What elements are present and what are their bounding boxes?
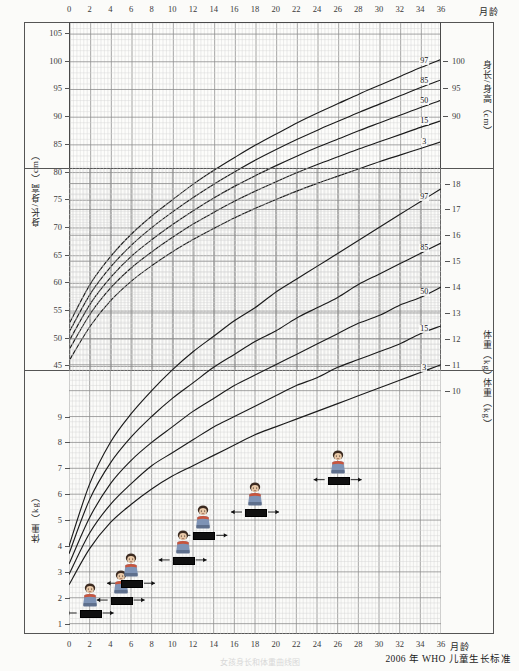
x-tick-2: 2 [88,640,92,649]
height-left-tick-105: 105 [49,29,62,38]
tick-dash [445,313,450,314]
marker-label-bar [80,610,102,618]
x-tick-2: 2 [88,5,92,14]
tick-dash [445,261,450,262]
x-tick-0: 0 [67,640,71,649]
marker-label-bar [173,557,195,565]
baby-illustration-marker [79,582,101,608]
x-tick-12: 12 [189,5,198,14]
x-tick-26: 26 [333,5,342,14]
weight-right-tick-15: 15 [452,257,461,266]
weight-axis-label-right-upper: 体重（kg） [481,330,494,381]
x-tick-14: 14 [209,640,218,649]
x-tick-22: 22 [292,640,301,649]
x-tick-24: 24 [313,5,322,14]
baby-illustration-marker [192,504,214,530]
growth-chart-page: 024681012141618202224262830323436 月龄 455… [0,0,519,671]
x-tick-6: 6 [129,5,133,14]
x-tick-28: 28 [354,640,363,649]
weight-left-tick-1: 1 [58,619,62,628]
weight-left-tick-3: 3 [58,568,62,577]
x-tick-30: 30 [375,640,384,649]
baby-illustration-marker [244,481,266,507]
x-tick-22: 22 [292,5,301,14]
x-tick-26: 26 [333,640,342,649]
percentile-label-3: 3 [421,138,427,146]
tick-dash [443,61,448,62]
x-tick-10: 10 [168,5,177,14]
percentile-label-3: 3 [421,364,427,372]
x-tick-12: 12 [189,640,198,649]
height-left-tick-85: 85 [54,140,63,149]
marker-label-bar [328,477,350,485]
baby-illustration-marker [120,552,142,578]
tick-dash [65,61,70,62]
percentile-label-85: 85 [419,77,429,85]
x-tick-4: 4 [108,640,112,649]
marker-label-bar [245,509,267,517]
weight-right-tick-10: 10 [452,386,461,395]
percentile-label-85: 85 [419,244,429,252]
tick-dash [65,468,70,469]
x-tick-32: 32 [395,5,404,14]
x-axis-top-unit-label: 月龄 [479,5,498,18]
tick-dash [65,33,70,34]
weight-right-tick-17: 17 [452,205,461,214]
weight-chart-plot-area [69,168,441,634]
faint-bottom-caption: 女孩身长和体重曲线图 [220,656,300,667]
weight-right-tick-18: 18 [452,179,461,188]
weight-right-tick-13: 13 [452,309,461,318]
x-tick-36: 36 [437,5,446,14]
tick-dash [443,116,448,117]
weight-left-tick-4: 4 [58,542,62,551]
x-tick-4: 4 [108,5,112,14]
tick-dash [65,88,70,89]
baby-illustration-marker [172,529,194,555]
tick-dash [445,235,450,236]
height-left-tick-100: 100 [49,57,62,66]
marker-label-bar [121,580,143,588]
weight-axis-label-right-lower: 体重（kg） [481,378,494,429]
tick-dash [65,572,70,573]
tick-dash [65,624,70,625]
x-tick-28: 28 [354,5,363,14]
percentile-label-50: 50 [419,97,429,105]
tick-dash [445,391,450,392]
height-left-tick-90: 90 [54,112,63,121]
tick-dash [65,546,70,547]
x-tick-34: 34 [416,5,425,14]
x-tick-34: 34 [416,640,425,649]
percentile-label-50: 50 [419,288,429,296]
height-left-tick-95: 95 [54,84,63,93]
percentile-label-97: 97 [419,193,429,201]
tick-dash [65,144,70,145]
x-tick-20: 20 [271,640,280,649]
x-tick-0: 0 [67,5,71,14]
x-tick-18: 18 [251,5,260,14]
weight-right-tick-16: 16 [452,231,461,240]
marker-label-bar [193,532,215,540]
x-tick-30: 30 [375,5,384,14]
tick-dash [443,88,448,89]
height-right-tick-90: 90 [452,112,461,121]
x-tick-10: 10 [168,640,177,649]
tick-dash [445,365,450,366]
x-tick-20: 20 [271,5,280,14]
marker-label-bar [111,597,133,605]
height-axis-label-right: 身长/身高（cm） [481,60,494,137]
x-tick-6: 6 [129,640,133,649]
tick-dash [65,520,70,521]
height-right-tick-100: 100 [452,57,465,66]
weight-left-tick-6: 6 [58,490,62,499]
tick-dash [65,417,70,418]
tick-dash [65,598,70,599]
x-tick-8: 8 [150,5,154,14]
weight-left-tick-5: 5 [58,516,62,525]
percentile-label-15: 15 [419,325,429,333]
tick-dash [65,494,70,495]
x-tick-18: 18 [251,640,260,649]
x-tick-32: 32 [395,640,404,649]
footer-standard-note: 2006 年 WHO 儿童生长标准 [385,651,511,665]
tick-dash [445,287,450,288]
weight-left-tick-2: 2 [58,594,62,603]
